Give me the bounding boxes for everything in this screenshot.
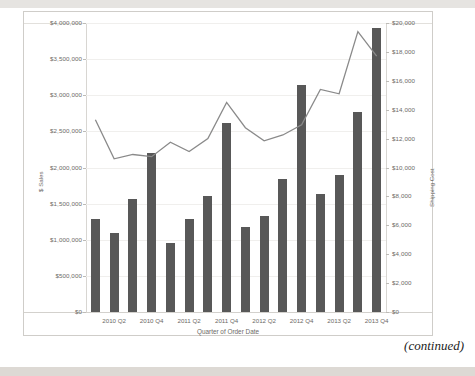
x-tick-label: 2013 Q4 [365,317,389,324]
y-tick-mark-right [386,254,389,255]
x-tick-label: 2011 Q2 [177,317,200,324]
x-tick-label: 2012 Q4 [290,317,314,324]
y-tick-label-left: $1,000,000 [26,236,82,243]
y-tick-mark-right [386,312,389,313]
y-tick-label-right: $0 [392,308,399,315]
figure-frame: $4,000,000$3,500,000$3,000,000$2,500,000… [23,11,433,336]
continued-note: (continued) [404,338,464,354]
x-tick-label: 2010 Q4 [140,317,164,324]
y-tick-label-right: $12,000 [392,135,415,142]
y-tick-label-left: $4,000,000 [26,19,82,26]
y-tick-mark-right [386,110,389,111]
y-tick-label-left: $3,500,000 [26,55,82,62]
y-axis-left-title: $ Sales [37,171,44,192]
y-tick-label-right: $8,000 [392,192,412,199]
y-tick-label-right: $16,000 [392,77,415,84]
x-axis-title: Quarter of Order Date [24,328,432,335]
shipping-cost-line [95,32,376,159]
y-tick-label-right: $20,000 [392,19,415,26]
x-tick-label: 2013 Q2 [327,317,351,324]
y-tick-label-right: $10,000 [392,164,415,171]
line-series [86,23,386,312]
y-tick-label-left: $500,000 [26,272,82,279]
x-tick-label: 2011 Q4 [215,317,238,324]
y-tick-mark-left [83,312,86,313]
y-tick-mark-right [386,283,389,284]
y-tick-mark-right [386,52,389,53]
y-axis-right-title: Shipping Cost [428,168,435,207]
y-tick-label-left: $2,000,000 [26,164,82,171]
y-tick-mark-right [386,196,389,197]
y-tick-label-right: $4,000 [392,250,412,257]
y-tick-label-left: $0 [26,308,82,315]
y-tick-label-right: $6,000 [392,221,412,228]
page-bottom-edge [0,367,475,376]
y-tick-label-right: $2,000 [392,279,412,286]
y-tick-mark-right [386,168,389,169]
x-tick-label: 2010 Q2 [102,317,126,324]
y-tick-mark-right [386,225,389,226]
y-tick-mark-right [386,139,389,140]
chart-canvas: $4,000,000$3,500,000$3,000,000$2,500,000… [24,12,432,335]
y-tick-label-right: $14,000 [392,106,415,113]
x-tick-label: 2012 Q2 [252,317,276,324]
caption-fragment-text [30,0,450,8]
y-tick-label-left: $1,500,000 [26,200,82,207]
y-tick-label-left: $2,500,000 [26,127,82,134]
y-tick-mark-right [386,23,389,24]
y-tick-label-right: $18,000 [392,48,415,55]
y-tick-mark-right [386,81,389,82]
y-tick-label-left: $3,000,000 [26,91,82,98]
